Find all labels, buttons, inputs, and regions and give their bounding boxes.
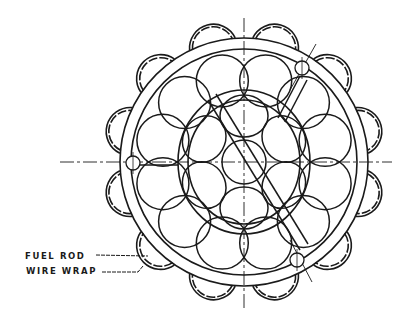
fuel-assembly-diagram xyxy=(0,0,418,326)
wire-wrap-arc xyxy=(314,232,352,270)
wire-wrap-arc xyxy=(253,24,299,50)
fuel-rod-leader xyxy=(96,255,148,256)
inner-fuel-rod xyxy=(174,108,234,171)
inner-fuel-rod xyxy=(254,108,314,171)
wire-wrap-arc xyxy=(253,274,299,300)
wire-wrap-arc xyxy=(106,171,132,217)
wire-wrap-arc xyxy=(106,108,132,154)
wire-wrap-arc xyxy=(356,171,382,217)
inner-fuel-rod xyxy=(254,154,314,217)
wire-wrap-leader xyxy=(102,266,143,272)
outer-fuel-rod xyxy=(196,217,248,269)
wire-wrap-arc xyxy=(137,55,175,93)
wire-wrap-arc xyxy=(314,55,352,93)
fuel-rod-label: FUEL ROD xyxy=(25,251,86,261)
wire-wrap-arc xyxy=(190,274,236,300)
outer-fuel-rod xyxy=(240,55,292,107)
outer-fuel-rod xyxy=(196,55,248,107)
wire-wrap-arc xyxy=(356,108,382,154)
wire-wrap-label: WIRE WRAP xyxy=(26,266,97,276)
branch-bar-edge xyxy=(285,80,307,122)
wire-wrap-arc xyxy=(137,232,175,270)
branch-bar-edge xyxy=(278,76,300,118)
wire-wrap-arc xyxy=(190,24,236,50)
inner-fuel-rod xyxy=(174,154,234,217)
